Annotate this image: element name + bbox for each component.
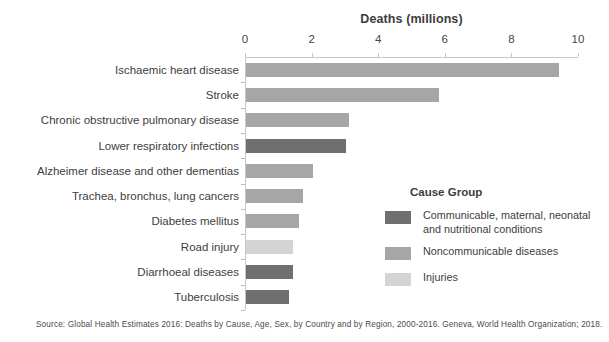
legend: Cause Group Communicable, maternal, neon… <box>385 186 609 297</box>
x-axis-tick-10 <box>578 53 579 57</box>
x-axis-tick-6 <box>445 53 446 57</box>
legend-items: Communicable, maternal, neonatal and nut… <box>385 209 609 288</box>
legend-swatch-communicable <box>385 211 411 224</box>
legend-label: Noncommunicable diseases <box>423 245 609 259</box>
legend-label: Injuries <box>423 271 609 285</box>
bar-communicable[interactable] <box>246 265 293 279</box>
x-axis-tick-4 <box>378 53 379 57</box>
legend-swatch-injuries <box>385 273 411 286</box>
bar-communicable[interactable] <box>246 139 346 153</box>
category-label: Stroke <box>0 88 239 102</box>
category-label: Diarrhoeal diseases <box>0 265 239 279</box>
y-axis-tick <box>241 82 245 83</box>
x-tick-label-6: 6 <box>442 33 448 45</box>
y-axis-tick <box>241 259 245 260</box>
y-axis-tick <box>241 158 245 159</box>
bar-fill <box>246 139 346 153</box>
bar-noncommunicable[interactable] <box>246 63 559 77</box>
y-axis-tick <box>241 184 245 185</box>
legend-item-injuries[interactable]: Injuries <box>385 271 609 288</box>
bar-noncommunicable[interactable] <box>246 88 439 102</box>
legend-item-noncommunicable[interactable]: Noncommunicable diseases <box>385 245 609 262</box>
bar-fill <box>246 240 293 254</box>
bar-fill <box>246 88 439 102</box>
bar-fill <box>246 214 299 228</box>
y-axis-tick <box>241 234 245 235</box>
bar-communicable[interactable] <box>246 290 289 304</box>
bar-noncommunicable[interactable] <box>246 189 303 203</box>
y-axis-tick <box>241 133 245 134</box>
category-label: Diabetes mellitus <box>0 214 239 228</box>
x-axis-tick-labels: 0246810 <box>245 33 578 47</box>
category-label: Trachea, bronchus, lung cancers <box>0 189 239 203</box>
category-axis-labels: Ischaemic heart diseaseStrokeChronic obs… <box>0 57 239 310</box>
y-axis-tick <box>241 209 245 210</box>
legend-swatch-noncommunicable <box>385 247 411 260</box>
bar-fill <box>246 265 293 279</box>
category-label: Chronic obstructive pulmonary disease <box>0 113 239 127</box>
x-tick-label-10: 10 <box>572 33 585 45</box>
bar-noncommunicable[interactable] <box>246 214 299 228</box>
bar-fill <box>246 113 349 127</box>
category-label: Lower respiratory infections <box>0 139 239 153</box>
bar-injuries[interactable] <box>246 240 293 254</box>
legend-item-communicable[interactable]: Communicable, maternal, neonatal and nut… <box>385 209 609 236</box>
x-axis-tick-8 <box>511 53 512 57</box>
bar-noncommunicable[interactable] <box>246 164 313 178</box>
x-tick-label-0: 0 <box>242 33 248 45</box>
y-axis-tick <box>241 310 245 311</box>
bar-fill <box>246 164 313 178</box>
category-label: Road injury <box>0 240 239 254</box>
x-tick-label-4: 4 <box>375 33 381 45</box>
deaths-by-cause-bar-chart: Deaths (millions) 0246810 Ischaemic hear… <box>0 0 609 342</box>
legend-title: Cause Group <box>410 186 609 198</box>
x-axis-tick-0 <box>245 53 246 57</box>
x-tick-label-2: 2 <box>308 33 314 45</box>
x-tick-label-8: 8 <box>508 33 514 45</box>
category-label: Tuberculosis <box>0 290 239 304</box>
source-note: Source: Global Health Estimates 2016: De… <box>36 320 596 329</box>
bar-fill <box>246 189 303 203</box>
bar-noncommunicable[interactable] <box>246 113 349 127</box>
x-axis-line <box>245 57 578 58</box>
x-axis-tick-2 <box>312 53 313 57</box>
bar-fill <box>246 63 559 77</box>
y-axis-tick <box>241 108 245 109</box>
category-label: Ischaemic heart disease <box>0 63 239 77</box>
chart-axis-title: Deaths (millions) <box>245 12 578 26</box>
y-axis-tick <box>241 285 245 286</box>
legend-label: Communicable, maternal, neonatal and nut… <box>423 209 609 236</box>
category-label: Alzheimer disease and other dementias <box>0 164 239 178</box>
bar-fill <box>246 290 289 304</box>
